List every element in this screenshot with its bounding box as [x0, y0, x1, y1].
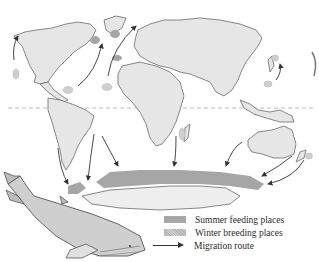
- map-legend: Summer feeding places Winter breeding pl…: [163, 213, 313, 252]
- summer-feeding-south-america: [68, 182, 86, 194]
- legend-item-summer: Summer feeding places: [163, 213, 313, 226]
- whale-migration-map: Summer feeding places Winter breeding pl…: [0, 0, 319, 262]
- summer-feeding-swatch-icon: [164, 216, 186, 223]
- winter-breeding-west-australia: [179, 128, 185, 140]
- legend-label: Summer feeding places: [195, 215, 284, 225]
- legend-label: Winter breeding places: [195, 228, 283, 238]
- legend-label: Migration route: [194, 241, 254, 251]
- winter-breeding-japan: [272, 55, 279, 61]
- south-america: [48, 98, 94, 170]
- australia: [248, 126, 296, 158]
- southeast-asia-islands: [240, 100, 294, 122]
- winter-breeding-east-australia: [306, 153, 313, 159]
- north-america: [14, 22, 96, 84]
- new-zealand: [296, 150, 306, 162]
- antarctica: [82, 186, 240, 210]
- winter-breeding-baja: [13, 69, 19, 79]
- winter-breeding-swatch-icon: [164, 229, 186, 236]
- winter-breeding-west-africa: [102, 84, 112, 91]
- legend-item-route: Migration route: [153, 239, 313, 252]
- winter-breeding-hawaii-asia: [264, 81, 272, 87]
- page-edge-artifact: [312, 52, 316, 76]
- africa: [118, 62, 184, 146]
- winter-breeding-caribbean: [63, 87, 73, 94]
- legend-item-winter: Winter breeding places: [163, 226, 313, 239]
- migration-arrow-icon: [153, 242, 184, 249]
